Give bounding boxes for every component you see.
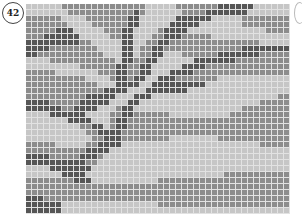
grid-cell <box>284 208 290 214</box>
pattern-grid <box>26 4 290 214</box>
figure-number-badge: 42 <box>2 2 24 24</box>
figure-number: 42 <box>7 8 20 18</box>
adjacent-badge-edge <box>294 2 302 24</box>
